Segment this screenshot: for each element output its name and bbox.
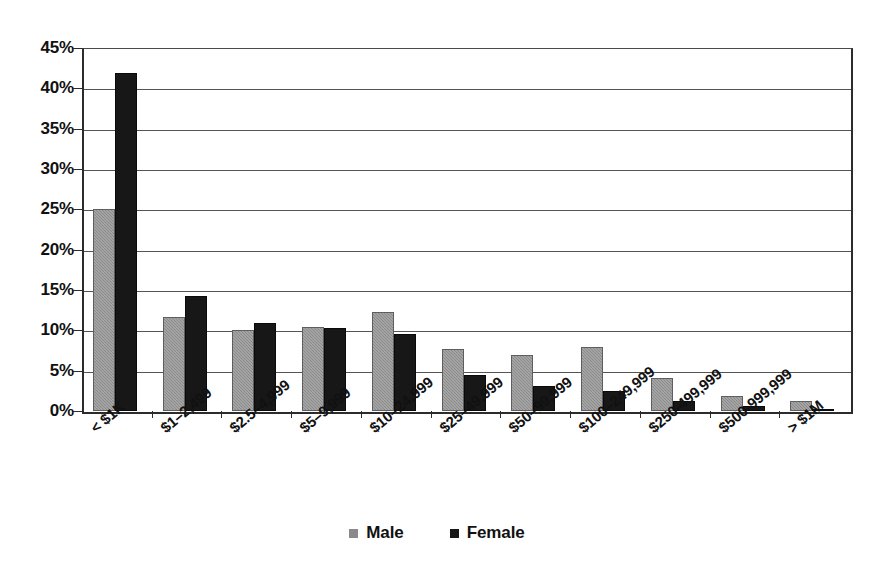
x-axis-category-label: $25–49,999 xyxy=(436,373,506,436)
x-axis-category-label: > $1M xyxy=(784,397,826,436)
legend-label: Female xyxy=(467,523,525,543)
x-axis-category-label: $1–2,499 xyxy=(157,384,215,436)
x-axis-category-label: $2.5–4,999 xyxy=(226,376,293,436)
x-axis-category-label: < $1K xyxy=(87,398,128,436)
legend-swatch-male xyxy=(349,529,358,538)
legend-label: Male xyxy=(366,523,403,543)
x-axis-category-label: $5–9,999 xyxy=(296,384,354,436)
legend-item-female[interactable]: Female xyxy=(450,523,525,543)
x-axis-category-label: $50–99,999 xyxy=(505,373,575,436)
bar-chart: 45%40%35%30%25%20%15%10%5%0% < $1K$1–2,4… xyxy=(0,0,874,566)
x-axis-category-label: $500-999,999 xyxy=(715,365,795,436)
x-axis-category-label: $100–249,999 xyxy=(575,363,658,436)
legend-swatch-female xyxy=(450,529,459,538)
legend-item-male[interactable]: Male xyxy=(349,523,403,543)
x-axis-labels: < $1K$1–2,499$2.5–4,999$5–9,999$10–24,99… xyxy=(0,0,874,566)
x-axis-category-label: $10–24,999 xyxy=(366,373,436,436)
chart-legend: MaleFemale xyxy=(0,523,874,543)
